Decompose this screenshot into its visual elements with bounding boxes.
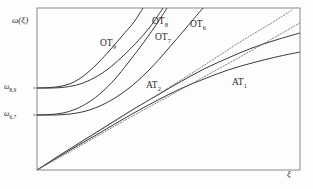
label-ot7: OT7: [155, 33, 171, 44]
label-ot9-base: OT: [100, 38, 113, 48]
label-at2-sub: 2: [158, 85, 161, 92]
y-axis-label: ω(ξ): [12, 16, 28, 25]
label-ot8: OT8: [152, 17, 168, 28]
figure-dispersion-curves: ω(ξ) ξ ω8,9 ω6,7 OT9 OT8 OT7 OT6 AT2 AT1: [0, 0, 313, 189]
label-ot7-sub: 7: [168, 37, 171, 44]
label-ot8-sub: 8: [165, 21, 168, 28]
label-at1: AT1: [232, 78, 247, 89]
label-ot9: OT9: [100, 39, 116, 50]
label-ot6: OT6: [190, 20, 206, 31]
label-at2-base: AT: [146, 80, 158, 90]
ytick-label-omega-8-9: ω8,9: [4, 83, 16, 93]
label-ot6-sub: 6: [203, 24, 206, 31]
label-ot9-sub: 9: [113, 43, 116, 50]
label-at1-sub: 1: [244, 82, 247, 89]
ytick-label-omega-6-7: ω6,7: [4, 110, 16, 120]
label-ot7-base: OT: [155, 32, 168, 42]
label-ot8-base: OT: [152, 16, 165, 26]
ytick-sub-omega-6-7: 6,7: [9, 114, 16, 120]
ytick-sub-omega-8-9: 8,9: [9, 87, 16, 93]
label-at1-base: AT: [232, 77, 244, 87]
x-axis-label: ξ: [287, 170, 291, 179]
label-at2: AT2: [146, 81, 161, 92]
label-ot6-base: OT: [190, 19, 203, 29]
